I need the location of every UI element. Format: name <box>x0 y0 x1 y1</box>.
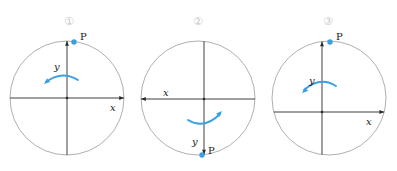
panel-2-group <box>141 41 255 158</box>
panel-1-point-p-marker <box>71 39 76 44</box>
panel-2-y-axis-label: y <box>192 137 198 147</box>
panel-1-y-axis-arrowhead <box>65 41 69 46</box>
panel-1-x-axis-arrowhead <box>119 96 124 100</box>
panel-3-x-axis-label: x <box>366 117 372 127</box>
panel-2-origin-dot <box>203 98 206 101</box>
panel-2-point-p-marker <box>199 152 204 157</box>
panel-2-number-label: ② <box>193 16 203 27</box>
panel-1-point-p-label: P <box>80 32 87 42</box>
panel-3-y-axis-arrowhead <box>320 41 324 46</box>
panel-1-number-label: ① <box>64 16 74 27</box>
panel-2-x-axis-label: x <box>163 88 169 98</box>
panel-2-x-axis-arrowhead <box>141 97 146 101</box>
panel-1-group <box>10 39 124 155</box>
panel-2-circle <box>141 41 255 155</box>
panel-1-origin-dot <box>66 97 69 100</box>
figure-canvas: ①Pxy②Pxy③Pxy <box>0 0 397 171</box>
panel-3-number-label: ③ <box>323 16 333 27</box>
panel-3-point-p-marker <box>327 39 332 44</box>
panel-3-y-axis-label: y <box>309 76 315 86</box>
panel-3-origin-dot <box>321 111 324 114</box>
panel-3-point-p-label: P <box>336 32 343 42</box>
panel-1-x-axis-label: x <box>110 103 116 113</box>
panel-3-group <box>272 39 386 155</box>
panel-1-rotation-arrow <box>46 75 78 82</box>
panel-2-point-p-label: P <box>208 146 215 156</box>
panel-3-circle <box>272 41 386 155</box>
panel-1-y-axis-label: y <box>54 62 60 72</box>
